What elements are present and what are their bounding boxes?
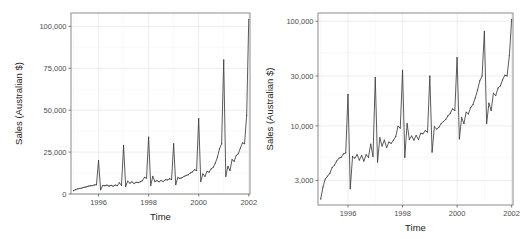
y-axis: 025,00050,00075,000100,000 [39,22,71,199]
x-tick-label: 2002 [503,209,520,218]
x-tick-label: 2000 [449,209,466,218]
x-tick-label: 1996 [90,198,107,207]
y-axis-title: Sales (Australian $) [13,62,24,145]
x-axis-title: Time [405,222,426,233]
y-tick-label: 50,000 [44,106,67,115]
x-axis: 1996199820002002 [90,194,257,207]
y-tick-label: 3,000 [295,176,314,185]
y-tick-label: 10,000 [291,122,314,131]
y-tick-label: 100,000 [39,22,66,31]
y-axis: 3,00010,00030,000100,000 [286,17,318,185]
linear-scale-panel: 025,00050,00075,000100,00019961998200020… [0,0,263,239]
y-tick-label: 0 [62,190,66,199]
x-tick-label: 1996 [340,209,357,218]
figure-root: 025,00050,00075,000100,00019961998200020… [0,0,526,239]
x-tick-label: 1998 [140,198,157,207]
x-axis: 1996199820002002 [340,205,520,218]
log-scale-plot: 3,00010,00030,000100,0001996199820002002… [263,0,526,239]
x-tick-label: 2000 [190,198,207,207]
x-axis-title: Time [150,211,171,222]
log-scale-panel: 3,00010,00030,000100,0001996199820002002… [263,0,526,239]
y-tick-label: 25,000 [44,148,67,157]
x-tick-label: 1998 [394,209,411,218]
y-tick-label: 100,000 [286,17,313,26]
y-tick-label: 75,000 [44,64,67,73]
y-tick-label: 30,000 [291,72,314,81]
x-tick-label: 2002 [240,198,257,207]
y-axis-title: Sales (Australian $) [264,68,275,151]
linear-scale-plot: 025,00050,00075,000100,00019961998200020… [0,0,263,239]
